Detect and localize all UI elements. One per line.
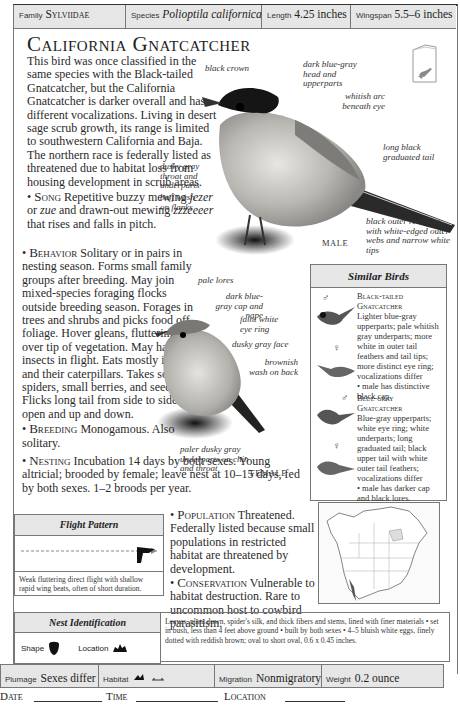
- song-call-2: zue: [40, 203, 56, 217]
- song-heading: Song: [34, 189, 61, 204]
- length-cell: Length 4.25 inches: [262, 5, 351, 28]
- behavior-heading: Behavior: [29, 245, 77, 260]
- conservation-heading: Conservation: [177, 575, 247, 590]
- flight-path-icon: [15, 537, 163, 569]
- nest-row: Shape Location: [15, 633, 160, 663]
- location-field[interactable]: [285, 690, 345, 702]
- similar-bird-2-desc: Blue-gray upperparts; white eye ring; wh…: [357, 413, 443, 483]
- date-label: Date: [0, 690, 23, 702]
- weight-label: Weight: [326, 675, 351, 684]
- flight-pattern-description: Weak fluttering direct flight with shall…: [15, 571, 163, 595]
- annotation-eye-ring: faint white eye ring: [240, 315, 285, 334]
- song-mid: or: [27, 203, 40, 217]
- flight-pattern-title: Flight Pattern: [15, 515, 163, 536]
- breeding-heading: Breeding: [29, 421, 77, 436]
- song-text-post: that rises and falls in pitch.: [27, 217, 156, 231]
- wingspan-cell: Wingspan 5.5–6 inches: [351, 5, 456, 28]
- flight-pattern-panel: Flight Pattern Weak fluttering direct fl…: [14, 514, 164, 596]
- cup-nest-shape-icon: [48, 641, 60, 655]
- similar-bird-2-name-1: Blue-gray: [357, 393, 443, 403]
- location-label: Location: [78, 644, 108, 653]
- species-label: Species: [131, 11, 159, 20]
- blue-gray-male-icon: [315, 403, 357, 433]
- plumage-label: Plumage: [5, 675, 37, 684]
- similar-bird-1-desc: Lighter blue-gray upperparts; pale whiti…: [357, 311, 443, 381]
- annotation-face: dusky gray face: [232, 340, 312, 350]
- black-tailed-male-icon: [315, 303, 357, 333]
- habitat-label: Habitat: [103, 675, 128, 684]
- annotation-head: dark blue-gray head and upperparts: [303, 60, 373, 89]
- nest-identification-panel: Nest Identification Shape Location: [14, 612, 161, 664]
- annotation-tail: long black graduated tail: [383, 143, 443, 162]
- annotation-rectrices: black outer rectrices with white-edged o…: [366, 217, 451, 255]
- migration-value: Nonmigratory: [256, 672, 321, 684]
- similar-bird-2-name-2: Gnatcatcher: [357, 403, 443, 413]
- migration-label: Migration: [219, 675, 252, 684]
- location-field-label: Location: [224, 690, 266, 702]
- habitat-cell: Habitat: [99, 665, 215, 687]
- time-label: Time: [106, 690, 127, 702]
- female-symbol: ♀: [333, 342, 341, 353]
- weight-value: 0.2 ounce: [355, 672, 400, 684]
- annotation-lores: pale lores: [198, 276, 233, 286]
- species-cell: Species Polioptila californica: [126, 5, 262, 28]
- male-symbol: ♂: [341, 392, 349, 403]
- time-field[interactable]: [136, 690, 218, 702]
- family-cell: Family Sylviidae: [14, 5, 126, 28]
- annotation-arc: whitish arc beneath eye: [330, 92, 385, 111]
- annotation-throat: dusky gray throat and underparts: [160, 162, 205, 191]
- plumage-cell: Plumage Sexes differ: [1, 665, 99, 687]
- range-map: [318, 502, 440, 604]
- annotation-back: brownish wash on back: [248, 358, 298, 377]
- length-value: 4.25 inches: [294, 8, 346, 20]
- bottom-info-bar: Plumage Sexes differ Habitat Migration N…: [0, 664, 444, 688]
- female-label: FEMALE: [250, 468, 287, 478]
- migration-cell: Migration Nonmigratory: [215, 665, 322, 687]
- info-bar: Family Sylviidae Species Polioptila cali…: [14, 5, 456, 29]
- shrub-location-icon: [112, 643, 128, 653]
- similar-bird-2: Blue-gray Gnatcatcher Blue-gray upperpar…: [357, 393, 443, 503]
- date-field[interactable]: [34, 690, 102, 702]
- similar-birds-title: Similar Birds: [311, 265, 446, 288]
- female-symbol: ♀: [333, 440, 341, 451]
- population-heading: Population: [177, 507, 235, 522]
- length-label: Length: [267, 11, 291, 20]
- plumage-value: Sexes differ: [41, 672, 96, 684]
- shape-label: Shape: [21, 644, 44, 653]
- nest-identification-title: Nest Identification: [15, 613, 160, 633]
- family-value: Sylviidae: [45, 8, 89, 20]
- similar-bird-1-name-1: Black-tailed: [357, 291, 443, 301]
- wingspan-label: Wingspan: [356, 11, 392, 20]
- annotation-chin: paler dusky gray underparts on chin and …: [180, 445, 250, 474]
- north-america-map-icon: [319, 503, 439, 603]
- male-label: MALE: [322, 238, 348, 248]
- similar-bird-1-name-2: Gnatcatcher: [357, 301, 443, 311]
- annotation-black-crown: black crown: [205, 64, 249, 74]
- nesting-heading: Nesting: [29, 453, 70, 468]
- black-tailed-female-icon: [315, 355, 357, 385]
- family-label: Family: [19, 11, 43, 20]
- field-guide-page: Family Sylviidae Species Polioptila cali…: [0, 0, 460, 713]
- wingspan-value: 5.5–6 inches: [394, 8, 452, 20]
- similar-bird-1: Black-tailed Gnatcatcher Lighter blue-gr…: [357, 291, 443, 401]
- annotation-flanks: buff wash on flanks: [160, 193, 205, 212]
- similar-birds-panel: Similar Birds ♂ ♀ Black-tailed Gnatcatch…: [310, 264, 447, 501]
- male-symbol: ♂: [322, 292, 330, 303]
- similar-bird-2-note: male has darker cap and black lores.: [357, 483, 430, 503]
- weight-cell: Weight 0.2 ounce: [322, 665, 443, 687]
- nest-description: Leaves, plant down, spider's silk, and t…: [160, 612, 450, 662]
- blue-gray-female-icon: [315, 453, 357, 479]
- song-mid-2: and drawn-out mewing: [56, 203, 173, 217]
- habitat-icons: [132, 672, 166, 682]
- species-value: Polioptila californica: [162, 8, 261, 20]
